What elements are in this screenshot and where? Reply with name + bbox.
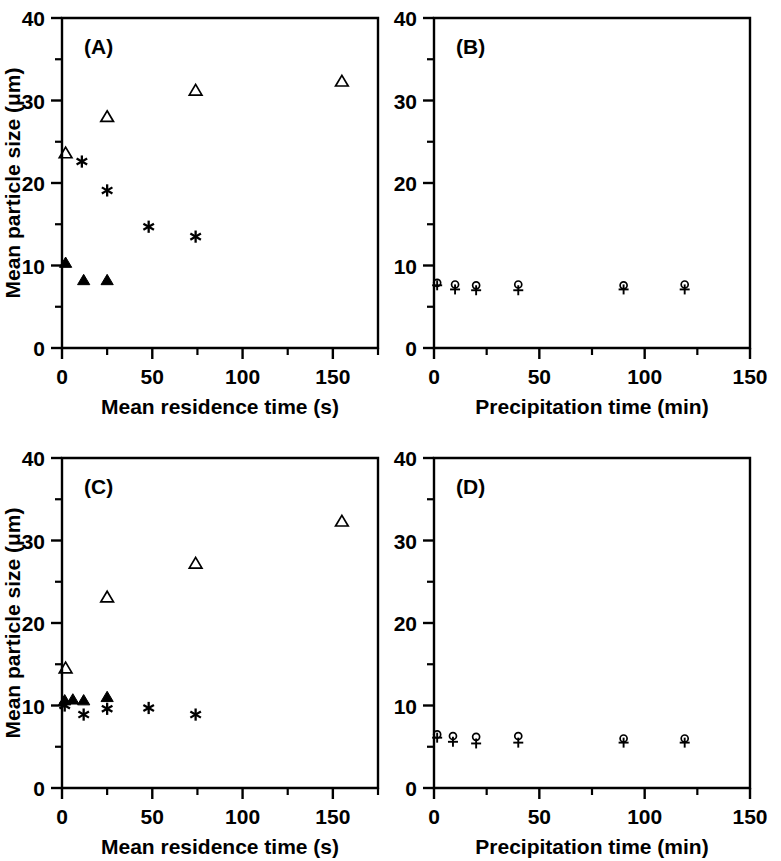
y-tick-label: 30 bbox=[22, 530, 45, 553]
data-point-asterisk bbox=[190, 708, 201, 720]
data-point-open-triangle bbox=[101, 111, 114, 122]
y-tick-label: 0 bbox=[33, 777, 45, 800]
x-tick-label: 0 bbox=[428, 805, 440, 828]
x-axis-title: Mean residence time (s) bbox=[101, 395, 339, 418]
x-tick-label: 150 bbox=[732, 805, 767, 828]
y-tick-label: 10 bbox=[22, 695, 45, 718]
y-tick-label: 0 bbox=[33, 337, 45, 360]
y-tick-label: 40 bbox=[22, 447, 45, 470]
data-point-asterisk bbox=[102, 703, 113, 715]
plot-frame bbox=[62, 458, 378, 788]
x-tick-label: 150 bbox=[732, 365, 767, 388]
data-point-filled-triangle bbox=[101, 274, 113, 284]
data-point-plus bbox=[513, 738, 523, 748]
data-point-open-triangle bbox=[189, 557, 202, 568]
y-tick-label: 20 bbox=[22, 612, 45, 635]
y-tick-label: 40 bbox=[22, 7, 45, 30]
panel-c: 050100150010203040(C)Mean residence time… bbox=[0, 430, 391, 861]
y-tick-label: 10 bbox=[22, 255, 45, 278]
x-tick-label: 100 bbox=[627, 365, 662, 388]
plot-frame bbox=[62, 18, 378, 348]
x-axis-title: Precipitation time (min) bbox=[475, 395, 708, 418]
y-tick-label: 40 bbox=[394, 447, 417, 470]
data-point-plus bbox=[471, 738, 481, 748]
plot-d: 050100150010203040(D)Precipitation time … bbox=[390, 430, 781, 861]
x-tick-label: 100 bbox=[627, 805, 662, 828]
y-tick-label: 20 bbox=[394, 172, 417, 195]
y-tick-label: 30 bbox=[394, 90, 417, 113]
panel-label: (D) bbox=[456, 475, 485, 498]
x-tick-label: 150 bbox=[315, 805, 350, 828]
x-tick-label: 0 bbox=[428, 365, 440, 388]
x-tick-label: 150 bbox=[315, 365, 350, 388]
y-tick-label: 0 bbox=[405, 777, 417, 800]
y-tick-label: 10 bbox=[394, 695, 417, 718]
plot-a: 050100150010203040(A)Mean residence time… bbox=[0, 0, 391, 431]
x-tick-label: 0 bbox=[56, 805, 68, 828]
y-axis-title: Mean particle size (μm) bbox=[1, 507, 24, 738]
panel-label: (B) bbox=[456, 35, 485, 58]
data-point-open-triangle bbox=[336, 515, 349, 526]
x-tick-label: 50 bbox=[141, 365, 164, 388]
x-axis-title: Mean residence time (s) bbox=[101, 835, 339, 858]
data-point-asterisk bbox=[77, 155, 88, 167]
y-tick-label: 0 bbox=[405, 337, 417, 360]
data-point-asterisk bbox=[143, 221, 154, 233]
x-tick-label: 50 bbox=[141, 805, 164, 828]
y-tick-label: 40 bbox=[394, 7, 417, 30]
data-point-asterisk bbox=[78, 708, 89, 720]
data-point-open-triangle bbox=[189, 84, 202, 95]
x-axis-title: Precipitation time (min) bbox=[475, 835, 708, 858]
data-point-asterisk bbox=[102, 184, 113, 196]
panel-label: (C) bbox=[84, 475, 113, 498]
figure-four-panel-scatter: 050100150010203040(A)Mean residence time… bbox=[0, 0, 781, 861]
data-point-filled-triangle bbox=[101, 691, 113, 701]
x-tick-label: 50 bbox=[528, 805, 551, 828]
y-tick-label: 20 bbox=[394, 612, 417, 635]
panel-b: 050100150010203040(B)Precipitation time … bbox=[390, 0, 781, 431]
x-tick-label: 0 bbox=[56, 365, 68, 388]
plot-c: 050100150010203040(C)Mean residence time… bbox=[0, 430, 391, 861]
data-point-filled-triangle bbox=[78, 274, 90, 284]
y-tick-label: 10 bbox=[394, 255, 417, 278]
x-tick-label: 50 bbox=[528, 365, 551, 388]
data-point-filled-triangle bbox=[78, 695, 90, 705]
x-tick-label: 100 bbox=[225, 365, 260, 388]
plot-frame bbox=[434, 458, 750, 788]
data-point-asterisk bbox=[190, 231, 201, 243]
y-tick-label: 30 bbox=[394, 530, 417, 553]
plot-b: 050100150010203040(B)Precipitation time … bbox=[390, 0, 781, 431]
x-tick-label: 100 bbox=[225, 805, 260, 828]
data-point-open-triangle bbox=[336, 75, 349, 86]
panel-d: 050100150010203040(D)Precipitation time … bbox=[390, 430, 781, 861]
data-point-asterisk bbox=[143, 702, 154, 714]
y-tick-label: 30 bbox=[22, 90, 45, 113]
y-axis-title: Mean particle size (μm) bbox=[1, 67, 24, 298]
plot-frame bbox=[434, 18, 750, 348]
panel-a: 050100150010203040(A)Mean residence time… bbox=[0, 0, 391, 431]
data-point-open-triangle bbox=[101, 591, 114, 602]
panel-label: (A) bbox=[84, 35, 113, 58]
y-tick-label: 20 bbox=[22, 172, 45, 195]
